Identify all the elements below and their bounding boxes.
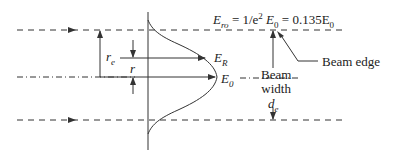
beam-width-label: Beam width: [261, 68, 291, 96]
beam-edge-pointer: [280, 34, 318, 61]
re-label: re: [106, 50, 115, 67]
r-label: r: [130, 62, 135, 75]
beam-edge-label: Beam edge: [322, 55, 380, 68]
beam-diagram: [0, 0, 404, 161]
er-label: ER: [214, 51, 227, 68]
top-direction-arrow-icon: [68, 27, 76, 33]
e0-label: E0: [221, 72, 233, 89]
bottom-direction-arrow-icon: [68, 117, 76, 123]
de-label: de: [268, 97, 279, 114]
equation-label: Ero = 1/e2 E0 = 0.135E0: [213, 12, 334, 30]
